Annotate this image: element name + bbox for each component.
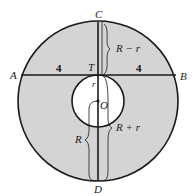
label-b: B [180, 70, 187, 82]
label-left-half-chord: 4 [56, 62, 62, 74]
label-o: O [100, 99, 108, 111]
label-outer-radius: R [74, 133, 82, 145]
label-r-plus-r: R + r [115, 121, 141, 133]
label-a: A [9, 69, 17, 81]
label-right-half-chord: 4 [136, 62, 142, 74]
label-r-minus-r: R − r [115, 42, 141, 54]
label-c: C [95, 8, 103, 20]
label-t: T [88, 61, 95, 73]
label-inner-radius: r [92, 79, 96, 89]
label-d: D [93, 183, 102, 195]
concentric-circles-diagram: A B C D T O r R 4 4 R − r R + r [0, 0, 193, 196]
